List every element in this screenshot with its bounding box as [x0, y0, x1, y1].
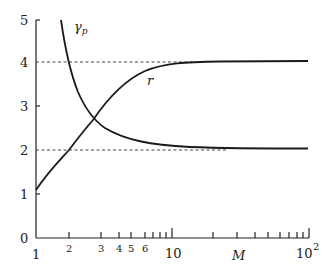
x-tick-100-exponent: 2 [313, 241, 319, 252]
x-tick-5: 5 [128, 243, 134, 254]
x-tick-4: 4 [116, 243, 122, 254]
label-gamma-p: γp [74, 19, 88, 36]
series-gamma-p [61, 20, 308, 149]
x-tick-10: 10 [165, 246, 182, 261]
y-tick-4: 4 [20, 55, 28, 70]
y-tick-3: 3 [20, 99, 28, 114]
y-tick-5: 5 [20, 13, 28, 28]
x-tick-1: 1 [32, 247, 40, 262]
x-tick-2: 2 [66, 243, 72, 254]
x-tick-100-base: 10 [296, 246, 313, 261]
label-r: r [147, 73, 154, 88]
series-r [36, 61, 308, 190]
x-tick-6: 6 [142, 243, 148, 254]
chart: 0 1 2 3 4 5 1 2 3 4 5 6 10 10 2 M γp r [0, 0, 333, 274]
y-axis [36, 20, 40, 238]
x-axis [36, 228, 309, 238]
y-tick-1: 1 [20, 187, 28, 202]
y-tick-0: 0 [20, 231, 28, 246]
x-axis-label: M [231, 248, 246, 263]
y-tick-2: 2 [20, 143, 28, 158]
x-tick-3: 3 [98, 243, 104, 254]
